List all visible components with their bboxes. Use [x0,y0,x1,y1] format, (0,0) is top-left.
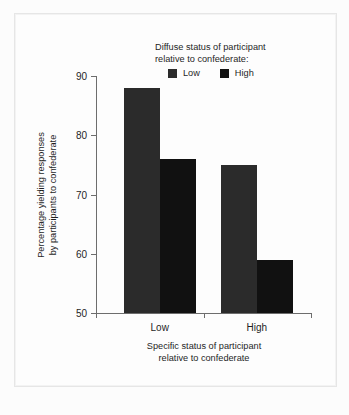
y-axis-tick: 80 [91,135,96,136]
bar-low-low [124,88,160,313]
y-axis-tick: 60 [91,254,96,255]
bar-low-high [160,159,196,313]
x-axis-tick [96,313,97,318]
chart-legend: Diffuse status of participant relative t… [155,42,340,78]
chart-figure: Diffuse status of participant relative t… [0,0,349,415]
x-axis-tick [311,313,312,318]
y-axis-tick-label: 80 [76,130,87,141]
plot-area: 5060708090 LowHigh [96,76,312,313]
y-axis-tick-label: 60 [76,248,87,259]
bar-high-high [257,260,293,313]
bar-high-low [221,165,257,313]
x-axis-title: Specific status of participant relative … [96,341,312,364]
x-axis-category-label: High [247,322,268,333]
y-axis-tick-label: 50 [76,308,87,319]
y-axis-tick-label: 70 [76,189,87,200]
y-axis-tick: 90 [91,76,96,77]
x-axis-tick [204,313,205,318]
x-axis-title-line-1: Specific status of participant [96,341,312,353]
y-axis-tick: 70 [91,195,96,196]
y-axis-title-line-2: by participants to confederate [48,100,60,290]
y-axis-title-line-1: Percentage yielding responses [36,100,48,290]
y-axis-line [96,76,97,313]
legend-caption-line-1: Diffuse status of participant [155,42,340,54]
y-axis-tick-label: 90 [76,71,87,82]
x-axis-title-line-2: relative to confederate [96,353,312,365]
legend-caption-line-2: relative to confederate: [155,54,340,66]
y-axis-title: Percentage yielding responses by partici… [36,100,59,290]
x-axis-category-label: Low [151,322,169,333]
